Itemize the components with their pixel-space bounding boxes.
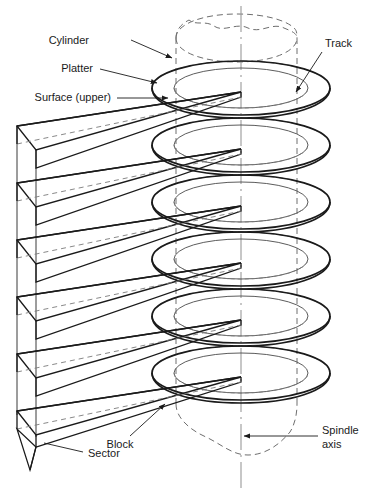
- head-arm-6: [17, 377, 241, 447]
- head-arm-4-underside: [36, 263, 241, 339]
- cylinder-top-bottom-arc: [176, 38, 297, 62]
- sector-leader: [44, 443, 83, 452]
- label-spindle-axis-line2: axis: [322, 438, 342, 450]
- head-arm-5: [17, 320, 241, 396]
- cylinder-top-back-wave: [176, 20, 297, 38]
- head-arm-6-underside: [36, 377, 241, 447]
- label-cylinder: Cylinder: [49, 34, 90, 46]
- sector-wedge-right-edge: [30, 447, 36, 470]
- label-surface-upper: Surface (upper): [35, 91, 111, 103]
- disk-structure-diagram: Cylinder Platter Surface (upper) Track B…: [0, 0, 371, 499]
- head-arm-1: [17, 92, 241, 168]
- actuator-column: [17, 126, 36, 437]
- head-arm-6-top-ridge: [17, 377, 241, 411]
- cylinder-bottom-arc: [176, 404, 297, 455]
- head-arm-4: [17, 263, 241, 339]
- head-arm-3: [17, 206, 241, 282]
- head-arm-2-underside: [36, 149, 241, 225]
- label-spindle-axis-line1: Spindle: [322, 424, 359, 436]
- platter-leader: [100, 69, 157, 83]
- disk-diagram-canvas: Cylinder Platter Surface (upper) Track B…: [0, 0, 371, 499]
- head-arm-1-underside: [36, 92, 241, 168]
- sector-wedge-outline: [17, 429, 36, 470]
- head-arm-2: [17, 149, 241, 225]
- cylinder-leader: [131, 40, 172, 58]
- head-arm-5-underside: [36, 320, 241, 396]
- label-sector: Sector: [88, 447, 120, 459]
- sector-wedge: [17, 429, 36, 470]
- head-arm-3-underside: [36, 206, 241, 282]
- label-platter: Platter: [61, 62, 93, 74]
- track-leader: [296, 52, 322, 92]
- block-leader: [130, 404, 165, 436]
- label-track: Track: [325, 37, 353, 49]
